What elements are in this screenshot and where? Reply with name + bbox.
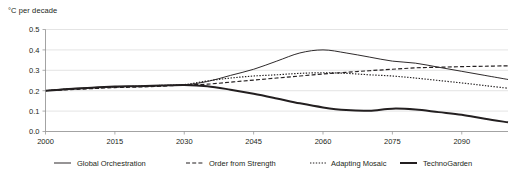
y-tick-label: 0.5 <box>29 25 39 34</box>
x-tick-label: 2030 <box>176 137 193 146</box>
x-tick-label: 2090 <box>453 137 470 146</box>
legend-label: Order from Strength <box>209 159 276 168</box>
y-tick-label: 0.4 <box>29 46 39 55</box>
y-tick-label: 0.2 <box>29 87 39 96</box>
chart-container: °C per decade 0.00.10.20.30.40.5 2000201… <box>0 0 516 179</box>
x-axis-ticks: 2000201520302045206020752090 <box>37 132 470 147</box>
y-tick-label: 0.1 <box>29 107 39 116</box>
x-tick-label: 2015 <box>107 137 124 146</box>
legend-item[interactable]: Order from Strength <box>186 159 276 168</box>
y-tick-label: 0.0 <box>29 127 39 136</box>
chart-legend: Global OrchestrationOrder from StrengthA… <box>54 159 472 168</box>
x-tick-label: 2060 <box>315 137 332 146</box>
legend-label: Global Orchestration <box>77 159 146 168</box>
series-lines <box>46 50 509 122</box>
x-tick-label: 2000 <box>37 137 54 146</box>
chart-canvas: 0.00.10.20.30.40.5 200020152030204520602… <box>0 0 516 179</box>
x-tick-label: 2045 <box>245 137 262 146</box>
y-tick-label: 0.3 <box>29 66 39 75</box>
legend-item[interactable]: TechnoGarden <box>400 159 472 168</box>
x-tick-label: 2075 <box>384 137 401 146</box>
legend-label: TechnoGarden <box>423 159 472 168</box>
axis-lines <box>46 30 509 132</box>
legend-label: Adapting Mosaic <box>331 159 387 168</box>
y-axis-ticks: 0.00.10.20.30.40.5 <box>29 25 45 136</box>
legend-item[interactable]: Global Orchestration <box>54 159 146 168</box>
legend-item[interactable]: Adapting Mosaic <box>310 159 387 168</box>
